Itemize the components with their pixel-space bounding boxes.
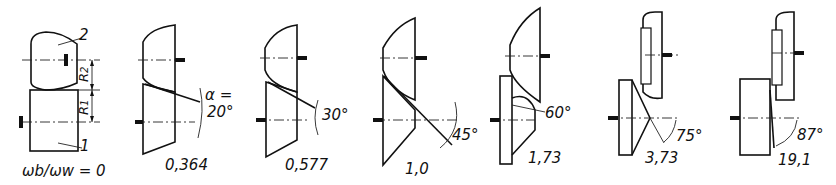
panel-4: 60° 1,73 [490,8,572,167]
label-part-1: 1 [80,137,90,155]
angle-label-3: 45° [452,126,479,144]
panel-5: 75° 3,73 [608,12,703,167]
ratio-label-1: 0,364 [165,156,208,174]
label-part-2: 2 [79,26,89,44]
panel-2: 30° 0,577 [256,25,349,174]
angle-label-6: 87° [797,126,824,144]
panel-1: α = 20° 0,364 [135,25,234,174]
ratio-label-0: ωb/ωw = 0 [22,162,106,180]
alpha-label: α = [205,86,232,104]
panel-0-ratio-zero: 2 1 R2 R1 ωb/ωw = 0 [19,26,106,180]
shaft-2 [64,54,68,66]
gear-1-body [30,90,78,151]
angle-label-4: 60° [545,104,572,122]
diagram-canvas: 2 1 R2 R1 ωb/ωw = 0 α = 20° 0,364 30° 0,… [0,0,836,185]
angle-label-5: 75° [676,127,703,145]
angle-label-1: 20° [207,103,234,121]
panel-3: 45° 1,0 [373,18,479,178]
ratio-label-2: 0,577 [285,156,328,174]
label-r2: R2 [76,67,91,82]
gear-2-body [31,32,77,90]
ratio-label-3: 1,0 [405,160,429,178]
angle-label-2: 30° [322,106,349,124]
ratio-label-4: 1,73 [528,149,561,167]
ratio-label-5: 3,73 [645,149,678,167]
ratio-label-6: 19,1 [778,151,811,169]
label-r1: R1 [76,100,91,115]
shaft-1 [19,116,23,128]
panel-6: 87° 19,1 [730,12,824,169]
